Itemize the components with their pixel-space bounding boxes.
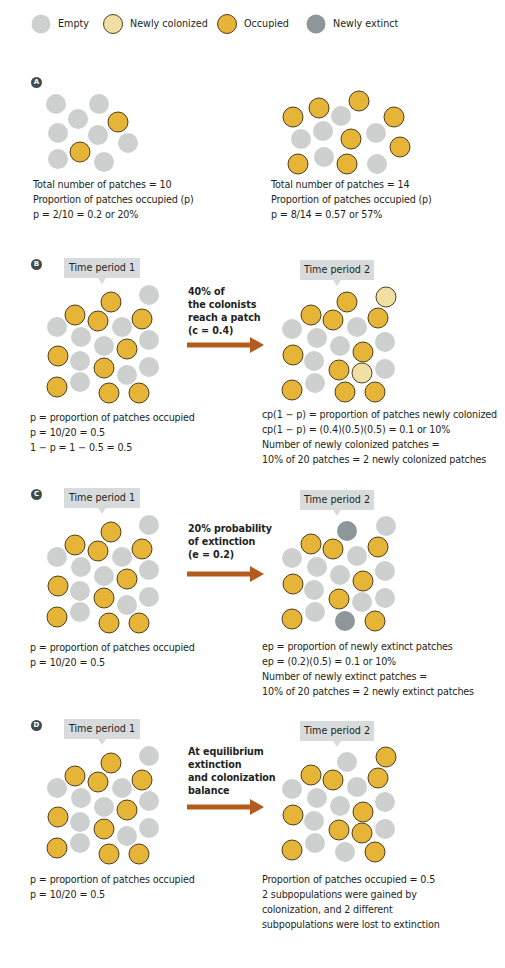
empty-patch-icon (337, 752, 357, 772)
arrow-label-line: of extinction (188, 535, 272, 548)
occupied-patch-icon (94, 358, 114, 378)
empty-patch-icon (70, 602, 90, 622)
caption-line: colonization, and 2 different (262, 902, 440, 917)
occupied-patch-icon (88, 311, 108, 331)
caption-line: Number of newly colonized patches = (262, 437, 497, 452)
legend-label-newly-extinct: Newly extinct (333, 18, 398, 29)
empty-patch-icon (70, 351, 90, 371)
newly-extinct-patch-icon (335, 611, 355, 631)
occupied-patch-icon (94, 819, 114, 839)
panel-b-right-caption: cp(1 − p) = proportion of patches newly … (262, 407, 497, 467)
occupied-patch-icon (390, 137, 410, 157)
empty-patch-icon (375, 561, 395, 581)
empty-patch-icon (46, 94, 66, 114)
empty-patch-icon (304, 580, 324, 600)
empty-patch-icon (118, 133, 138, 153)
panel-d-badge: D (31, 720, 42, 731)
occupied-patch-icon (99, 844, 119, 864)
panel-d-arrow-icon (187, 799, 264, 815)
caption-line: ep = (0.2)(0.5) = 0.1 or 10% (262, 654, 474, 669)
empty-patch-icon (347, 777, 367, 797)
panel-d-time-period-2-label: Time period 2 (300, 721, 374, 741)
occupied-patch-icon (283, 345, 303, 365)
empty-patch-icon (282, 548, 302, 568)
occupied-patch-icon (341, 129, 361, 149)
panel-a-left-caption: Total number of patches = 10 Proportion … (33, 177, 194, 222)
panel-d-right-caption: Proportion of patches occupied = 0.5 2 s… (262, 872, 440, 932)
newly-colonized-patch-icon (104, 15, 123, 34)
occupied-patch-icon (309, 98, 329, 118)
occupied-patch-icon (101, 753, 121, 773)
occupied-patch-icon (376, 747, 396, 767)
empty-patch-icon (352, 592, 372, 612)
occupied-patch-icon (117, 800, 137, 820)
occupied-patch-icon (117, 339, 137, 359)
empty-patch-icon (68, 109, 88, 129)
arrow-label-line: (e = 0.2) (188, 548, 272, 561)
empty-patch-icon (375, 332, 395, 352)
occupied-patch-icon (283, 805, 303, 825)
empty-patch-icon (304, 811, 324, 831)
metapopulation-diagram: Empty Newly colonized Occupied Newly ext… (0, 0, 505, 968)
caption-line: Proportion of patches occupied (p) (33, 192, 194, 207)
empty-patch-icon (70, 812, 90, 832)
empty-patch-icon (375, 792, 395, 812)
occupied-patch-icon (335, 382, 355, 402)
occupied-patch-icon (352, 823, 372, 843)
caption-line: cp(1 − p) = proportion of patches newly … (262, 407, 497, 422)
occupied-patch-icon (117, 569, 137, 589)
caption-line: 2 subpopulations were gained by (262, 887, 440, 902)
empty-patch-icon (313, 121, 333, 141)
legend-label-empty: Empty (58, 18, 89, 29)
empty-patch-icon (330, 336, 350, 356)
panel-a-right-caption: Total number of patches = 14 Proportion … (271, 177, 432, 222)
empty-patch-icon (117, 365, 137, 385)
empty-patch-icon (375, 819, 395, 839)
empty-patch-icon (375, 359, 395, 379)
panel-c-time-period-1-label: Time period 1 (64, 488, 140, 508)
caption-line: Proportion of patches occupied = 0.5 (262, 872, 440, 887)
empty-patch-icon (94, 566, 114, 586)
empty-patch-icon (376, 516, 396, 536)
occupied-patch-icon (288, 154, 308, 174)
occupied-patch-icon (101, 292, 121, 312)
occupied-patch-icon (282, 609, 302, 629)
newly-extinct-patch-icon (337, 521, 357, 541)
occupied-patch-icon (365, 611, 385, 631)
arrow-label-line: 20% probability (188, 522, 272, 535)
empty-patch-icon (305, 833, 325, 853)
caption-line: Total number of patches = 10 (33, 177, 194, 192)
occupied-patch-icon (301, 765, 321, 785)
empty-patch-icon (139, 515, 159, 535)
empty-patch-icon (70, 833, 90, 853)
occupied-patch-icon (47, 838, 67, 858)
empty-patch-icon (307, 328, 327, 348)
empty-patch-icon (366, 123, 386, 143)
empty-patch-icon (94, 797, 114, 817)
empty-patch-icon (139, 560, 159, 580)
caption-line: p = proportion of patches occupied (30, 872, 195, 887)
arrow-label-line: balance (188, 784, 276, 797)
caption-line: p = proportion of patches occupied (30, 640, 195, 655)
occupied-patch-icon (99, 613, 119, 633)
caption-line: p = 10/20 = 0.5 (30, 655, 195, 670)
occupied-patch-icon (129, 844, 149, 864)
panel-c-time-period-2-label: Time period 2 (300, 490, 374, 510)
occupied-patch-icon (129, 383, 149, 403)
arrow-label-line: 40% of (188, 285, 261, 298)
caption-text: Proportion of patches occupied (p) (33, 194, 194, 205)
diagram-canvas (0, 0, 505, 968)
occupied-patch-icon (337, 292, 357, 312)
panel-d-arrow-label: At equilibrium extinction and colonizati… (188, 745, 276, 797)
empty-patch-icon (112, 778, 132, 798)
empty-patch-icon (305, 602, 325, 622)
caption-line: p = proportion of patches occupied (30, 410, 195, 425)
occupied-patch-icon (48, 807, 68, 827)
occupied-patch-icon (132, 309, 152, 329)
empty-patch-icon (139, 357, 159, 377)
occupied-patch-icon (368, 308, 388, 328)
empty-patch-icon (139, 285, 159, 305)
panel-b-badge: B (31, 259, 42, 270)
occupied-patch-icon (368, 768, 388, 788)
empty-patch-icon (304, 351, 324, 371)
